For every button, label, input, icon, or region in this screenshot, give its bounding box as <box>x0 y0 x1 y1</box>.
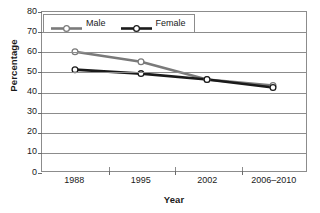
y-tick-label: 10 <box>17 147 37 156</box>
line-marker-black-icon <box>121 19 152 28</box>
data-point-male <box>138 59 144 65</box>
y-axis-tick-labels: 01020304050607080 <box>17 11 37 172</box>
gridline <box>42 93 306 94</box>
series-line-male <box>75 52 273 86</box>
y-tick-label: 70 <box>17 27 37 36</box>
legend-entry-female[interactable]: Female <box>121 19 186 28</box>
x-axis-tick-labels: 1988199520022006–2010 <box>41 175 307 189</box>
y-tick-mark <box>38 153 42 154</box>
y-tick-label: 30 <box>17 107 37 116</box>
gridline <box>42 153 306 154</box>
y-tick-mark <box>38 12 42 13</box>
y-tick-label: 80 <box>17 7 37 16</box>
data-point-female <box>204 77 210 83</box>
y-tick-mark <box>38 173 42 174</box>
y-tick-mark <box>38 72 42 73</box>
y-tick-label: 60 <box>17 47 37 56</box>
gridline <box>42 52 306 53</box>
y-tick-mark <box>38 113 42 114</box>
y-tick-mark <box>38 52 42 53</box>
legend-entry-male[interactable]: Male <box>51 19 106 28</box>
x-tick-label: 2006–2010 <box>251 175 296 186</box>
y-tick-label: 50 <box>17 67 37 76</box>
gridline <box>42 113 306 114</box>
data-point-female <box>270 85 276 91</box>
line-marker-gray-icon <box>51 19 82 28</box>
y-tick-mark <box>38 32 42 33</box>
x-tick-label: 1988 <box>64 175 84 186</box>
gridline <box>42 133 306 134</box>
x-tick-label: 1995 <box>131 175 151 186</box>
x-axis-title: Year <box>41 194 307 205</box>
gridline <box>42 72 306 73</box>
x-tick-label: 2002 <box>197 175 217 186</box>
plot-area <box>41 11 307 172</box>
series-layer <box>42 12 306 171</box>
y-tick-label: 40 <box>17 87 37 96</box>
y-tick-mark <box>38 93 42 94</box>
legend-label: Male <box>86 19 106 28</box>
y-tick-label: 0 <box>17 168 37 177</box>
chart-legend: MaleFemale <box>43 14 195 33</box>
y-tick-mark <box>38 133 42 134</box>
legend-label: Female <box>156 19 186 28</box>
y-tick-label: 20 <box>17 127 37 136</box>
line-chart: Percentage 01020304050607080 MaleFemale … <box>0 0 320 213</box>
